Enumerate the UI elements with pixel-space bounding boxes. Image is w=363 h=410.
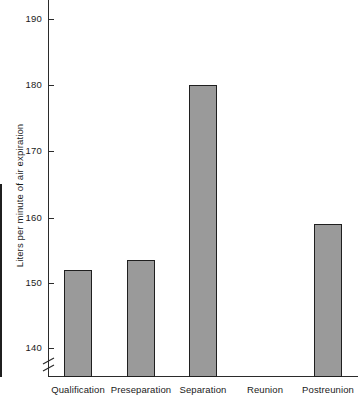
y-axis-title: Liters per minute of air expiration [14, 81, 25, 311]
y-tick-mark-190 [48, 19, 54, 20]
x-tick-label-postreunion: Postreunion [302, 384, 354, 395]
x-tick-label-separation: Separation [180, 384, 227, 395]
bar-separation [189, 85, 217, 377]
y-tick-label-140: 140 [12, 342, 42, 353]
bar-chart: Liters per minute of air expiration 190 … [0, 0, 363, 410]
y-tick-label-160: 160 [12, 212, 42, 223]
bar-preseparation [127, 260, 155, 377]
y-tick-label-180: 180 [12, 79, 42, 90]
y-tick-mark-150 [48, 283, 54, 284]
x-tick-label-qualification: Qualification [51, 384, 105, 395]
y-tick-label-190: 190 [12, 13, 42, 24]
y-tick-mark-140 [48, 348, 54, 349]
y-axis-line [48, 0, 49, 377]
y-tick-label-150: 150 [12, 277, 42, 288]
y-tick-label-170: 170 [12, 145, 42, 156]
bar-postreunion [314, 224, 342, 377]
x-tick-label-reunion: Reunion [247, 384, 283, 395]
axis-break-icon [41, 352, 57, 374]
x-tick-label-preseparation: Preseparation [111, 384, 171, 395]
y-tick-mark-170 [48, 151, 54, 152]
bar-reunion [0, 184, 2, 377]
y-tick-mark-180 [48, 85, 54, 86]
bar-qualification [64, 270, 92, 377]
y-tick-mark-160 [48, 218, 54, 219]
